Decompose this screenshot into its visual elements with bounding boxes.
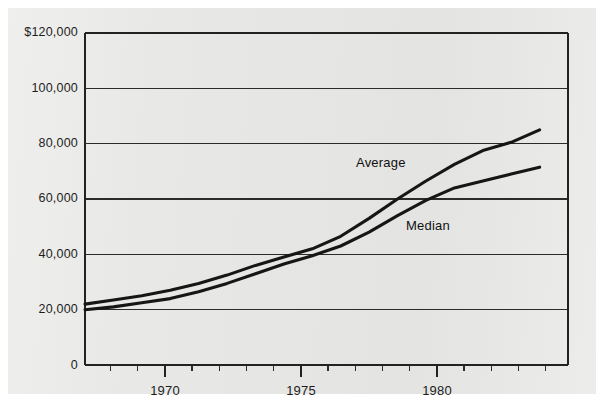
series-label-average: Average xyxy=(356,155,406,170)
series-label-median: Median xyxy=(406,218,450,233)
y-tick-label-100000: 100,000 xyxy=(0,81,78,95)
x-minor-ticks xyxy=(110,365,545,371)
y-tick-label-60000: 60,000 xyxy=(0,191,78,205)
line-chart xyxy=(0,0,604,411)
x-tick-label-1970: 1970 xyxy=(125,383,205,398)
x-tick-label-1975: 1975 xyxy=(261,383,341,398)
series-line-median xyxy=(85,167,540,310)
y-tick-label-80000: 80,000 xyxy=(0,136,78,150)
y-tick-label-40000: 40,000 xyxy=(0,247,78,261)
y-tick-label-20000: 20,000 xyxy=(0,302,78,316)
gridlines xyxy=(85,88,568,309)
x-major-ticks xyxy=(165,365,437,377)
series-line-average xyxy=(85,130,540,304)
chart-page: $120,000 100,000 80,000 60,000 40,000 20… xyxy=(0,0,604,411)
x-tick-label-1980: 1980 xyxy=(397,383,477,398)
y-tick-label-0: 0 xyxy=(0,358,78,372)
y-tick-label-120000: $120,000 xyxy=(0,25,78,39)
